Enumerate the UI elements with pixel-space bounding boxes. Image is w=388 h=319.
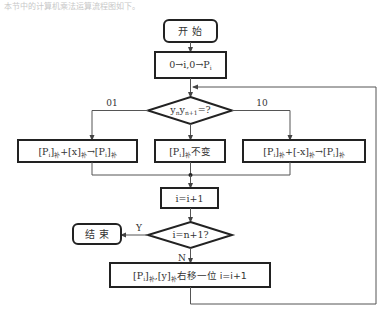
branch-10-arrow (232, 111, 290, 141)
end-label: 结 束 (85, 228, 110, 240)
increment-label: i=i+1 (175, 193, 203, 204)
init-node: 0→i,0→Pi (155, 52, 226, 78)
branch-10-label: 10 (256, 98, 268, 108)
shift-box: [Pi]补,[y]补右移一位 i=i+1 (110, 263, 270, 287)
yes-label: Y (135, 223, 143, 233)
no-label: N (178, 253, 186, 263)
add-x-box: [Pi]补+[x]补→[Pi]补 (18, 140, 137, 162)
decision-ynyn1: ynyn+1=? (148, 97, 232, 124)
start-node: 开 始 (164, 20, 217, 42)
flowchart: 开 始 0→i,0→Pi ynyn+1=? 01 10 [Pi]补+[x]补→[… (0, 0, 388, 319)
init-label: 0→i,0→Pi (169, 59, 211, 71)
unchanged-box: [Pi]补不变 (155, 140, 225, 162)
increment-box: i=i+1 (161, 188, 218, 208)
add-neg-x-box: [Pi]补+[-x]补→[Pi]补 (243, 140, 365, 162)
branch-01-label: 01 (106, 98, 117, 108)
decision-i-n1: i=n+1? (148, 222, 232, 248)
start-label: 开 始 (178, 25, 203, 37)
branch-01-arrow (92, 111, 148, 141)
end-node: 结 束 (73, 224, 121, 244)
decision2-label: i=n+1? (172, 229, 208, 240)
